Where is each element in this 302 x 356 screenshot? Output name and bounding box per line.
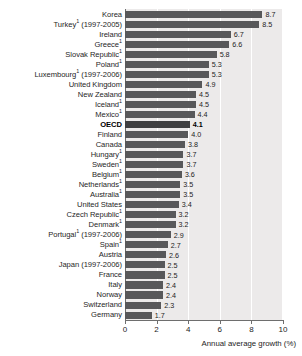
- bar-row-label: Italy: [0, 280, 122, 289]
- bar-row: Ireland6.7: [0, 29, 302, 39]
- bar-value-label: 2.6: [169, 251, 179, 260]
- bar: [125, 241, 168, 248]
- bar: [125, 261, 165, 268]
- bar-row: Norway2.4: [0, 290, 302, 300]
- x-axis-title: Annual average growth (%): [202, 339, 296, 349]
- bar-row: Greece16.6: [0, 39, 302, 49]
- bar-row: Germany1.7: [0, 310, 302, 320]
- bar-row: New Zealand4.5: [0, 89, 302, 99]
- bar: [125, 191, 180, 198]
- bar-value-label: 3.5: [183, 190, 193, 199]
- bar: [125, 21, 259, 28]
- bar-row: United Kingdom4.9: [0, 79, 302, 89]
- bar-value-label: 8.5: [262, 20, 272, 29]
- bar-row-label: Australia1: [0, 190, 122, 199]
- bar-value-label: 6.7: [234, 30, 244, 39]
- bar-value-label: 4.5: [199, 100, 209, 109]
- bar: [125, 271, 165, 278]
- x-axis-tick-label: 4: [176, 325, 200, 335]
- bar-value-label: 4.4: [198, 110, 208, 119]
- x-axis-tick: [157, 321, 158, 324]
- chart-title-cropped: [0, 0, 302, 7]
- bar-value-label: 2.4: [166, 281, 176, 290]
- bar: [125, 111, 195, 118]
- x-axis-tick: [220, 321, 221, 324]
- bar-row-label: Switzerland: [0, 300, 122, 309]
- bar-value-label: 3.2: [179, 210, 189, 219]
- bar-value-label: 3.6: [185, 170, 195, 179]
- bar-row: Netherlands13.5: [0, 180, 302, 190]
- x-axis-tick-label: 10: [271, 325, 295, 335]
- bar: [125, 61, 209, 68]
- bar-row: Australia13.5: [0, 190, 302, 200]
- bar: [125, 141, 185, 148]
- bar-row-label: Luxembourg1 (1997-2006): [0, 70, 122, 79]
- bar-row-label: Hungary1: [0, 150, 122, 159]
- bar-row-label: Mexico1: [0, 110, 122, 119]
- bar: [125, 121, 190, 128]
- bar-row: Japan (1997-2006)2.5: [0, 260, 302, 270]
- bar: [125, 312, 152, 319]
- bar-value-label: 3.7: [186, 150, 196, 159]
- bar-row-label: New Zealand: [0, 90, 122, 99]
- bar-row-label: Austria: [0, 250, 122, 259]
- bar-row: Belgium13.6: [0, 170, 302, 180]
- bar-row-label: Iceland1: [0, 100, 122, 109]
- bar-value-label: 4.0: [191, 130, 201, 139]
- x-axis-tick-label: 0: [113, 325, 137, 335]
- x-axis-tick: [188, 321, 189, 324]
- bar-value-label: 2.4: [166, 291, 176, 300]
- bar-row-label: Portugal1 (1997-2006): [0, 230, 122, 239]
- bar-row: Poland15.3: [0, 59, 302, 69]
- bar: [125, 31, 231, 38]
- bar-row-label: Slovak Republic1: [0, 50, 122, 59]
- bar: [125, 291, 163, 298]
- x-axis-tick-label: 2: [145, 325, 169, 335]
- bar-row-label: Germany: [0, 310, 122, 319]
- bar: [125, 131, 188, 138]
- bar-row-label: Canada: [0, 140, 122, 149]
- bar-value-label: 4.5: [199, 90, 209, 99]
- bar-value-label: 3.5: [183, 180, 193, 189]
- bar-value-label: 1.7: [155, 311, 165, 320]
- bar-row: OECD4.1: [0, 119, 302, 129]
- bar: [125, 281, 163, 288]
- bar-row-label: Sweden1: [0, 160, 122, 169]
- bar-value-label: 2.5: [168, 261, 178, 270]
- bar-row: Iceland14.5: [0, 99, 302, 109]
- bar-row: Slovak Republic15.8: [0, 49, 302, 59]
- bar-row: Portugal1 (1997-2006)2.9: [0, 230, 302, 240]
- bar-row: Finland4.0: [0, 129, 302, 139]
- bar: [125, 11, 262, 18]
- bar-row-label: United States: [0, 200, 122, 209]
- bar: [125, 101, 196, 108]
- bar: [125, 41, 229, 48]
- bar: [125, 161, 183, 168]
- bar: [125, 71, 209, 78]
- bar-rows: Korea8.7Turkey1 (1997-2005)8.5Ireland6.7…: [0, 9, 302, 320]
- bar-row: Austria2.6: [0, 250, 302, 260]
- bar-value-label: 3.7: [186, 160, 196, 169]
- x-axis-tick: [283, 321, 284, 324]
- bar-row-label: Denmark1: [0, 220, 122, 229]
- bar: [125, 221, 176, 228]
- bar-row-label: France: [0, 270, 122, 279]
- x-axis-tick-label: 6: [208, 325, 232, 335]
- bar-row-label: Czech Republic1: [0, 210, 122, 219]
- bar-row: Sweden13.7: [0, 159, 302, 169]
- bar-row: Spain12.7: [0, 240, 302, 250]
- bar-row: Mexico14.4: [0, 109, 302, 119]
- bar-row: Canada3.8: [0, 139, 302, 149]
- bar: [125, 302, 161, 309]
- bar-row: Switzerland2.3: [0, 300, 302, 310]
- bar-value-label: 8.7: [265, 10, 275, 19]
- bar-row-label: Spain1: [0, 240, 122, 249]
- x-axis-tick: [125, 321, 126, 324]
- bar: [125, 151, 183, 158]
- bar-chart: Korea8.7Turkey1 (1997-2005)8.5Ireland6.7…: [0, 0, 302, 356]
- bar-value-label: 3.2: [179, 220, 189, 229]
- bar-row: Hungary13.7: [0, 149, 302, 159]
- bar: [125, 81, 202, 88]
- bar-row-label: Turkey1 (1997-2005): [0, 20, 122, 29]
- bar: [125, 211, 176, 218]
